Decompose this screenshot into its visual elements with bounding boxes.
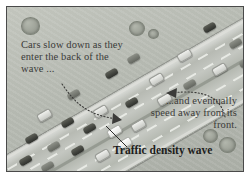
traffic-wave-figure: Cars slow down as they enter the back of… [6, 6, 244, 172]
left-callout-text: Cars slow down as they enter the back of… [21, 39, 125, 74]
dotted-curved-arrow-icon [59, 81, 135, 131]
bush [21, 17, 40, 35]
illustration-scene: Cars slow down as they enter the back of… [7, 7, 243, 171]
bush [129, 21, 145, 36]
dotted-curved-arrow-icon [155, 87, 229, 121]
traffic-density-wave-label: Traffic density wave [113, 144, 212, 156]
bush [219, 137, 236, 153]
bush [203, 129, 218, 143]
